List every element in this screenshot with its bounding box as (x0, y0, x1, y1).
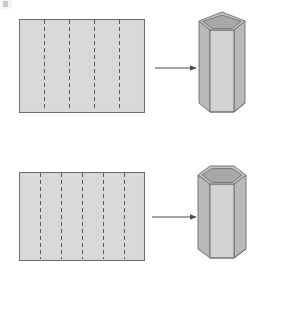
pentagonal-prism-face-front (210, 30, 234, 112)
hexagonal-prism (198, 166, 246, 258)
pentagonal-net-inner-shade (21, 21, 144, 112)
hexagonal-net (20, 173, 145, 261)
hexagonal-prism-face-front (210, 184, 234, 258)
hexagonal-prism-face-left (198, 175, 210, 258)
pentagonal-prism-face-left (199, 21, 210, 112)
pentagonal-prism (199, 12, 245, 112)
row-pentagon (20, 12, 246, 113)
pentagonal-prism-face-right (234, 21, 245, 112)
pentagonal-net (20, 20, 145, 113)
figure-canvas (0, 0, 285, 323)
hexagonal-prism-face-right (234, 175, 246, 258)
row-hexagon (20, 166, 247, 261)
